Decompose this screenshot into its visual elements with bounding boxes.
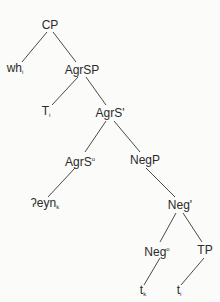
node-eyn: ʔeynk xyxy=(31,197,59,213)
node-tp: TP xyxy=(197,244,212,256)
branch-cp-wh xyxy=(22,32,47,62)
node-negp: NegP xyxy=(130,154,160,166)
node-label: ʔeyn xyxy=(31,196,56,210)
branch-negbar-negzero xyxy=(160,213,176,242)
node-index: k xyxy=(143,291,146,297)
branch-agrsbar-negp xyxy=(114,121,140,152)
node-label: Neg' xyxy=(168,198,192,212)
node-wh: whi xyxy=(7,62,24,78)
node-bar-level: o xyxy=(92,156,95,162)
node-t-upper: Ti xyxy=(42,105,51,121)
node-t-k: tk xyxy=(140,284,146,300)
branch-cp-agrsp xyxy=(53,32,76,62)
branch-agrsbar-agrszero xyxy=(85,121,106,152)
node-index: i xyxy=(180,291,181,297)
node-label: TP xyxy=(197,243,212,257)
node-neg-bar: Neg' xyxy=(168,199,192,211)
node-label: NegP xyxy=(130,153,160,167)
syntax-tree-diagram: CP whi AgrSP Ti AgrS' AgrSo NegP ʔeynk N… xyxy=(0,0,220,302)
branch-agrszero-eyn xyxy=(48,168,75,197)
branch-agrsp-t xyxy=(52,77,78,105)
node-bar-level: o xyxy=(166,246,169,252)
branch-negbar-tp xyxy=(183,213,202,242)
node-label: AgrSP xyxy=(65,63,100,77)
tree-branches xyxy=(0,0,220,302)
node-t-i: ti xyxy=(177,284,182,300)
branch-agrsp-agrsbar xyxy=(86,77,106,105)
node-neg-zero: Nego xyxy=(144,243,169,258)
branch-tp-ti xyxy=(181,258,204,285)
node-label: AgrS' xyxy=(96,106,125,120)
node-agrs-bar: AgrS' xyxy=(96,107,125,119)
node-index: i xyxy=(49,112,50,118)
node-label: CP xyxy=(42,18,59,32)
node-label: wh xyxy=(7,61,22,75)
node-cp: CP xyxy=(42,19,59,31)
node-label: Neg xyxy=(144,245,166,259)
node-index: k xyxy=(56,204,59,210)
branch-negzero-tk xyxy=(144,258,160,285)
node-agrsp: AgrSP xyxy=(65,64,100,76)
node-agrs-zero: AgrSo xyxy=(65,153,95,168)
branch-negp-negbar xyxy=(146,168,175,197)
node-index: i xyxy=(22,69,23,75)
node-label: AgrS xyxy=(65,155,92,169)
